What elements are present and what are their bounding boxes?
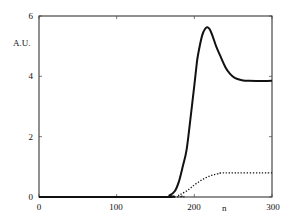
y-tick-label-2: 2 — [13, 132, 33, 142]
y-tick-label-0: 0 — [13, 192, 33, 202]
axis-ticks — [39, 16, 272, 197]
line-chart — [0, 0, 295, 220]
data-series — [39, 27, 272, 197]
y-tick-label-6: 6 — [13, 11, 33, 21]
x-tick-label-100: 100 — [101, 202, 131, 212]
x-axis-label: n — [222, 203, 227, 213]
x-tick-label-0: 0 — [24, 202, 54, 212]
y-tick-label-4: 4 — [13, 71, 33, 81]
series-solid-line — [39, 27, 272, 197]
plot-border — [39, 16, 272, 197]
x-tick-label-200: 200 — [179, 202, 209, 212]
y-axis-label: A.U. — [13, 38, 31, 48]
x-tick-label-300: 300 — [258, 202, 288, 212]
plot-frame — [39, 16, 272, 197]
series-dotted-line — [39, 173, 272, 197]
